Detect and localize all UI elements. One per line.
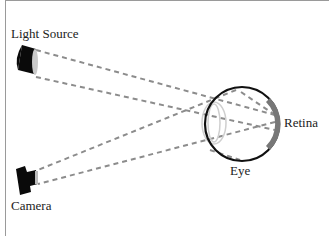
retina-icon <box>266 98 281 150</box>
eye-outline-icon <box>205 87 279 161</box>
eye-label: Eye <box>230 163 250 179</box>
light-source-label: Light Source <box>11 26 79 42</box>
light-source-icon <box>17 45 38 75</box>
diagram-frame: Light Source Camera Retina Eye <box>0 0 329 236</box>
camera-label: Camera <box>11 198 51 214</box>
camera-icon <box>16 166 38 195</box>
retina-label: Retina <box>284 115 318 131</box>
